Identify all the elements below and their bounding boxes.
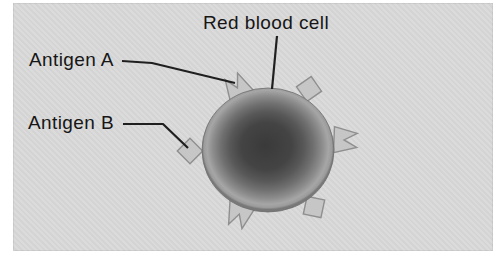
antigen-a-label: Antigen A — [29, 50, 114, 70]
antigen-a-leader-line — [122, 61, 235, 83]
antigen-a-marker-icon — [334, 127, 358, 154]
red-blood-cell-shape — [202, 88, 334, 212]
antigen-b-leader-line — [123, 124, 188, 148]
antigen-b-label: Antigen B — [28, 113, 114, 133]
red-blood-cell-leader-line — [272, 36, 277, 89]
figure-page: Red blood cell Antigen A Antigen B — [0, 0, 498, 259]
red-blood-cell-label: Red blood cell — [203, 13, 329, 33]
